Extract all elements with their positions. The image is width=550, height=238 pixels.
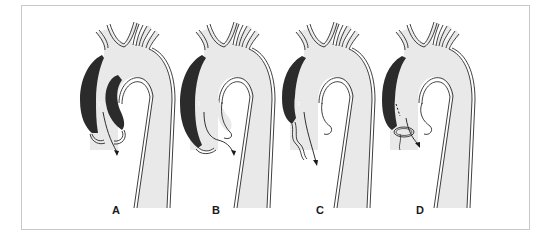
panel-label-c: C [316, 204, 324, 216]
aorta-diagram [0, 0, 550, 238]
panel-label-d: D [416, 204, 424, 216]
arrow-icon [231, 150, 236, 156]
panel-label-a: A [112, 204, 120, 216]
arrow-icon [313, 160, 318, 166]
panel-a [80, 22, 175, 208]
panel-b [180, 22, 275, 208]
panel-label-b: B [212, 204, 220, 216]
panel-c [282, 22, 375, 208]
arrow-icon [114, 150, 119, 156]
panel-d [382, 22, 475, 208]
